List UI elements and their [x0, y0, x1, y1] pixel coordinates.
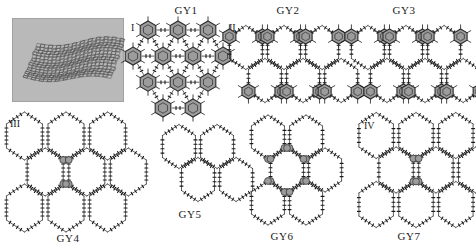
figure-canvas: I II III IV GY1 GY2 GY3 GY4 GY5 GY6 GY7: [0, 0, 476, 250]
structure-panel-gy5: [150, 120, 246, 206]
caption-gy5: GY5: [170, 208, 210, 220]
structure-panel-gy2: [232, 16, 336, 112]
structure-panel-gy7: [360, 118, 472, 222]
caption-gy1: GY1: [166, 4, 206, 16]
structure-panel-gy3: [344, 16, 468, 112]
caption-gy7: GY7: [389, 230, 429, 242]
structure-panel-gy4: [4, 116, 128, 228]
corrugated-graphyne-sheet-image: [12, 18, 124, 102]
caption-gy6: GY6: [262, 230, 302, 242]
caption-gy4: GY4: [48, 232, 88, 244]
caption-gy3: GY3: [384, 4, 424, 16]
structure-panel-gy6: [244, 118, 330, 222]
caption-gy2: GY2: [268, 4, 308, 16]
structure-panel-gy1: [128, 16, 228, 112]
